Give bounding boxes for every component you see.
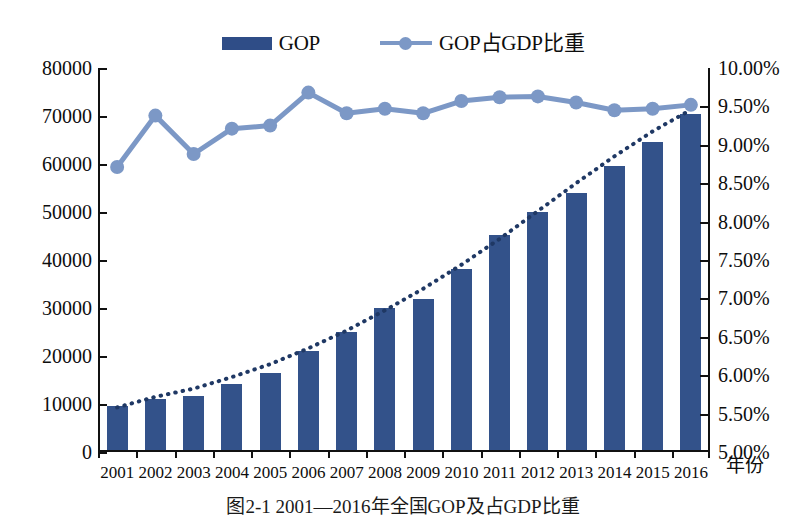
y-axis-left-label: 80000 [42, 58, 92, 78]
y-axis-right-label: 7.00% [718, 288, 770, 308]
line-marker-2016 [684, 98, 698, 112]
y-axis-right-label: 10.00% [718, 58, 780, 78]
line-marker-2012 [531, 89, 545, 103]
line-marker-2001 [110, 160, 124, 174]
y-axis-right-label: 7.50% [718, 250, 770, 270]
y-axis-left-label: 70000 [42, 106, 92, 126]
y-tick-left [98, 260, 107, 262]
y-tick-left [98, 212, 107, 214]
x-tick [213, 450, 215, 458]
y-axis-right-label: 9.00% [718, 135, 770, 155]
line-marker-2013 [569, 96, 583, 110]
y-tick-left [98, 116, 107, 118]
y-axis-left-label: 0 [82, 442, 92, 462]
chart-figure: GOP GOP占GDP比重 01000020000300004000050000… [0, 0, 806, 518]
legend-item-gop: GOP [222, 33, 320, 54]
trend-dotted-line [117, 110, 691, 408]
line-marker-2010 [454, 94, 468, 108]
line-marker-2004 [225, 122, 239, 136]
y-tick-left [98, 68, 107, 70]
y-axis-right-label: 6.50% [718, 327, 770, 347]
y-tick-right [700, 337, 709, 339]
x-tick [634, 450, 636, 458]
line-marker-2005 [263, 119, 277, 133]
y-tick-right [700, 414, 709, 416]
x-axis-title: 年份 [726, 456, 764, 475]
y-axis-right-label: 8.50% [718, 173, 770, 193]
y-axis-left-label: 50000 [42, 202, 92, 222]
y-tick-left [98, 164, 107, 166]
bar-swatch-icon [222, 37, 272, 50]
y-tick-right [700, 106, 709, 108]
y-tick-left [98, 404, 107, 406]
line-marker-2015 [646, 102, 660, 116]
x-tick [708, 450, 710, 458]
chart-legend: GOP GOP占GDP比重 [0, 26, 806, 60]
line-marker-2007 [340, 106, 354, 120]
plot-area [98, 68, 710, 452]
x-tick [557, 450, 559, 458]
x-tick [672, 450, 674, 458]
y-axis-left-label: 10000 [42, 394, 92, 414]
y-axis-left-label: 30000 [42, 298, 92, 318]
x-tick [175, 450, 177, 458]
line-series-overlay [98, 68, 710, 452]
line-marker-2003 [187, 147, 201, 161]
y-axis-left-label: 60000 [42, 154, 92, 174]
line-marker-2009 [416, 106, 430, 120]
y-tick-right [700, 145, 709, 147]
y-axis-left-label: 40000 [42, 250, 92, 270]
legend-item-gop-share: GOP占GDP比重 [380, 33, 584, 54]
y-axis-left-label: 20000 [42, 346, 92, 366]
x-axis-label-2016: 2016 [669, 464, 713, 481]
y-tick-right [700, 298, 709, 300]
line-marker-2008 [378, 102, 392, 116]
x-tick [328, 450, 330, 458]
line-marker-2002 [148, 109, 162, 123]
x-tick [404, 450, 406, 458]
x-tick [595, 450, 597, 458]
figure-caption: 图2-1 2001—2016年全国GOP及占GDP比重 [0, 496, 806, 518]
x-tick [98, 450, 100, 458]
line-marker-2014 [607, 103, 621, 117]
line-marker-swatch-icon [380, 36, 432, 50]
x-tick [442, 450, 444, 458]
x-tick [136, 450, 138, 458]
x-tick [251, 450, 253, 458]
y-tick-left [98, 308, 107, 310]
legend-label-gop: GOP [279, 33, 320, 54]
y-tick-right [700, 222, 709, 224]
y-axis-right-label: 5.50% [718, 404, 770, 424]
x-tick [519, 450, 521, 458]
x-tick [366, 450, 368, 458]
line-marker-2011 [493, 90, 507, 104]
y-axis-right-label: 6.00% [718, 365, 770, 385]
line-marker-2006 [301, 86, 315, 100]
y-axis-right-label: 8.00% [718, 212, 770, 232]
y-tick-right [700, 375, 709, 377]
y-axis-right-label: 9.50% [718, 96, 770, 116]
y-tick-left [98, 356, 107, 358]
legend-label-gop-share: GOP占GDP比重 [439, 33, 584, 54]
x-tick [289, 450, 291, 458]
y-tick-right [700, 183, 709, 185]
y-tick-right [700, 260, 709, 262]
gop-share-line [117, 93, 691, 167]
x-tick [481, 450, 483, 458]
